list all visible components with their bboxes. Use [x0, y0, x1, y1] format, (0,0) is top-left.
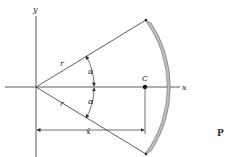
y-axis-label: y [32, 5, 38, 14]
angle-label-upper: α [88, 67, 94, 76]
angle-label-lower: α [88, 97, 94, 106]
centroid-label: C [142, 74, 148, 83]
arc-end-upper [145, 19, 148, 22]
radius-label-lower: r [60, 99, 65, 108]
arc-end-lower [145, 153, 148, 156]
xbar-label: x̄ [86, 127, 91, 136]
x-axis-label: x [182, 83, 187, 92]
caption-fragment: P [217, 128, 224, 138]
arc-centroid-diagram: y x r r α α C x̄ P [0, 0, 228, 157]
radius-line-upper [36, 20, 146, 87]
radius-label-upper: r [60, 59, 65, 68]
